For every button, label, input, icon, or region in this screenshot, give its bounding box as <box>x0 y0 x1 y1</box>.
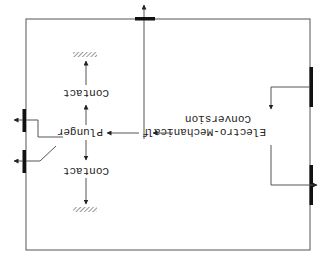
conversion-label-line1: Electro-Mechanical <box>147 126 266 138</box>
input-line-upper <box>271 87 310 109</box>
output-terminal-upper <box>23 109 27 132</box>
force-label: f <box>142 126 149 138</box>
output-terminal-bottom <box>135 17 155 21</box>
contact-label-lower: Contact <box>63 165 109 177</box>
ground-lower-icon <box>73 207 97 212</box>
ground-upper-icon <box>73 52 97 57</box>
plunger-label: Plunger <box>57 126 103 138</box>
diagram-svg: Electro-Mechanical Conversion f Plunger … <box>0 0 331 263</box>
diagram-canvas: Electro-Mechanical Conversion f Plunger … <box>0 0 331 263</box>
output-terminal-lower <box>23 150 27 173</box>
contact-label-upper: Contact <box>63 87 109 99</box>
plunger-output-line-lower <box>26 146 56 161</box>
conversion-label-line2: Conversion <box>185 113 251 125</box>
diagram-rotated-group: Electro-Mechanical Conversion f Plunger … <box>14 5 317 250</box>
input-terminal-upper <box>310 67 314 107</box>
